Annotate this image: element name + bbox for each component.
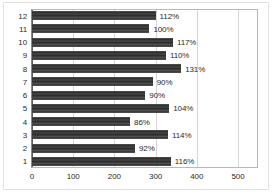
bar-row: 104% — [32, 104, 238, 113]
bar-row: 131% — [32, 64, 238, 73]
y-tick-8: 8 — [5, 64, 27, 73]
bar-8 — [32, 64, 181, 73]
bar-row: 100% — [32, 24, 238, 33]
bar-value-label: 90% — [157, 77, 173, 86]
x-tick-400: 400 — [190, 172, 203, 181]
bar-value-label: 110% — [170, 51, 189, 60]
x-tick-200: 200 — [108, 172, 121, 181]
bar-row: 117% — [32, 38, 238, 47]
y-tick-2: 2 — [5, 144, 27, 153]
y-tick-12: 12 — [5, 11, 27, 20]
bar-row: 92% — [32, 144, 238, 153]
bar-9 — [32, 51, 166, 60]
bar-12 — [32, 11, 156, 20]
bar-row: 86% — [32, 117, 238, 126]
bar-value-label: 131% — [185, 64, 205, 73]
bar-value-label: 86% — [134, 117, 150, 126]
bar-row: 90% — [32, 91, 238, 100]
x-tick-300: 300 — [149, 172, 162, 181]
bar-row: 110% — [32, 51, 238, 60]
bar-4 — [32, 117, 130, 126]
bar-1 — [32, 157, 171, 166]
bar-row: 116% — [32, 157, 238, 166]
bar-value-label: 90% — [149, 91, 165, 100]
bar-2 — [32, 144, 135, 153]
bar-10 — [32, 38, 173, 47]
gridline-500 — [238, 10, 239, 167]
x-tick-500: 500 — [231, 172, 244, 181]
bar-value-label: 117% — [177, 38, 196, 47]
x-tick-100: 100 — [67, 172, 80, 181]
y-tick-11: 11 — [5, 24, 27, 33]
bar-row: 90% — [32, 77, 238, 86]
y-tick-4: 4 — [5, 117, 27, 126]
bar-11 — [32, 24, 149, 33]
y-tick-10: 10 — [5, 38, 27, 47]
bar-5 — [32, 104, 169, 113]
bar-7 — [32, 77, 153, 86]
y-tick-7: 7 — [5, 77, 27, 86]
y-tick-9: 9 — [5, 51, 27, 60]
bar-6 — [32, 91, 145, 100]
x-tick-0: 0 — [30, 172, 34, 181]
bar-value-label: 116% — [175, 157, 194, 166]
bar-value-label: 100% — [153, 24, 173, 33]
bar-3 — [32, 130, 168, 139]
y-tick-6: 6 — [5, 91, 27, 100]
bar-row: 114% — [32, 130, 238, 139]
bar-chart-screenshot: 121110987654321 112%100%117%110%131%90%9… — [0, 0, 275, 195]
bar-value-label: 92% — [139, 144, 155, 153]
y-tick-1: 1 — [5, 157, 27, 166]
y-tick-5: 5 — [5, 104, 27, 113]
bar-row: 112% — [32, 11, 238, 20]
y-tick-3: 3 — [5, 130, 27, 139]
bar-value-label: 112% — [160, 11, 179, 20]
bar-value-label: 114% — [172, 130, 191, 139]
bar-value-label: 104% — [173, 104, 193, 113]
